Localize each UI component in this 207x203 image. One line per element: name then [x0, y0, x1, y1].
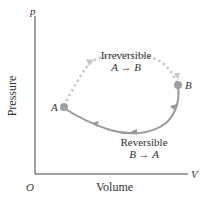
irreversible-arrow-1 — [86, 59, 94, 66]
irreversible-title: Irreversible — [96, 49, 156, 61]
y-axis-label: Pressure — [6, 76, 18, 117]
origin-label: O — [26, 181, 34, 193]
irreversible-label: Irreversible A → B — [96, 49, 156, 73]
pv-diagram — [0, 0, 207, 203]
x-axis-symbol: V — [191, 168, 198, 180]
point-b-label: B — [185, 79, 192, 91]
x-axis-label: Volume — [96, 181, 133, 193]
reversible-title: Reversible — [114, 136, 174, 148]
point-a — [60, 103, 68, 111]
point-b — [174, 81, 182, 89]
reversible-direction: B → A — [114, 148, 174, 160]
irreversible-direction: A → B — [96, 61, 156, 73]
reversible-label: Reversible B → A — [114, 136, 174, 160]
reversible-path — [64, 86, 179, 133]
point-a-label: A — [51, 101, 58, 113]
y-axis-symbol: p — [30, 5, 36, 17]
